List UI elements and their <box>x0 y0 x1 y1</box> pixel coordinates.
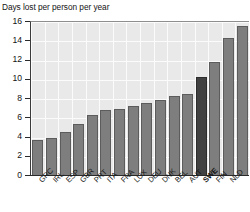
y-axis-tick <box>25 98 30 99</box>
bar-SWE <box>196 77 207 176</box>
plot-area <box>30 21 249 176</box>
bar-DNK <box>155 100 166 176</box>
y-axis-tick-label: 6 <box>0 113 22 122</box>
y-axis-tick-label: 4 <box>0 132 22 141</box>
bar-FRA <box>114 109 125 176</box>
bar-AUT <box>182 94 193 176</box>
y-axis-tick-label: 10 <box>0 74 22 83</box>
y-axis-tick-label: 14 <box>0 36 22 45</box>
bar-unlabeled-15 <box>237 26 248 176</box>
bar-LUX <box>128 106 139 176</box>
bar-NLD <box>223 38 234 176</box>
y-axis-tick-label: 8 <box>0 94 22 103</box>
bar-ESP <box>60 132 71 176</box>
y-axis-tick-label: 16 <box>0 17 22 26</box>
plot-inner <box>31 22 249 176</box>
y-axis-tick <box>25 40 30 41</box>
bar-GRC <box>32 140 43 176</box>
bar-BEL <box>169 96 180 176</box>
y-axis-tick <box>25 117 30 118</box>
y-axis-tick-label: 12 <box>0 55 22 64</box>
y-axis-title: Days lost per person per year <box>2 2 109 12</box>
bar-DEU <box>141 103 152 176</box>
y-axis-tick <box>25 137 30 138</box>
y-axis-tick <box>25 175 30 176</box>
y-axis-tick-label: 2 <box>0 151 22 160</box>
y-axis-tick <box>25 60 30 61</box>
bar-FIN <box>209 62 220 176</box>
y-axis-tick <box>25 21 30 22</box>
y-axis-tick <box>25 79 30 80</box>
y-axis-tick-label: 0 <box>0 171 22 180</box>
y-axis-tick <box>25 156 30 157</box>
chart-container: Sickness absence from work Days lost per… <box>0 0 250 212</box>
